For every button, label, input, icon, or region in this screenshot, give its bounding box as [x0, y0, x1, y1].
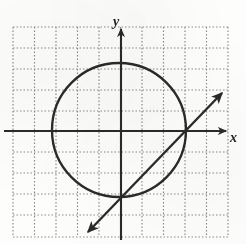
y-axis-label: y	[111, 14, 120, 29]
coordinate-plane-figure: y x	[0, 0, 246, 244]
paper-background	[0, 0, 246, 244]
figure-panel: c.	[0, 0, 246, 244]
x-axis-label: x	[229, 130, 237, 145]
